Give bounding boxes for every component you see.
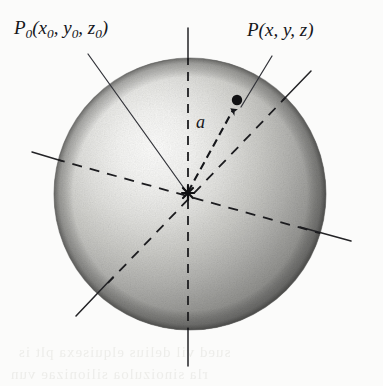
label-p0-x-subscript: 0	[47, 26, 54, 41]
label-p0-close-paren: )	[102, 17, 108, 38]
label-p0-comma1: ,	[54, 17, 59, 38]
figure-canvas	[0, 0, 383, 386]
label-vector-a: a	[196, 113, 205, 131]
y-axis-left-solid	[32, 152, 62, 161]
label-p0-comma2: ,	[78, 17, 83, 38]
x-axis-upper-solid	[283, 71, 311, 100]
label-p-comma1: ,	[273, 19, 278, 40]
label-p-comma2: ,	[290, 19, 295, 40]
label-p: P(x, y, z)	[247, 20, 314, 39]
label-p0-name: P	[14, 17, 26, 38]
point-p-marker	[232, 95, 242, 105]
label-p0-y: y	[63, 17, 71, 38]
label-p-close-paren: )	[307, 19, 313, 40]
label-p0: P0(x0, y0, z0)	[14, 18, 108, 40]
label-p0-z-subscript: 0	[95, 26, 102, 41]
sphere-figure: unsb sued vil delius elquisexa plt is rl…	[0, 0, 383, 386]
label-p0-x: x	[39, 17, 47, 38]
label-p-name: P	[247, 19, 259, 40]
point-p0-marker	[182, 186, 194, 200]
